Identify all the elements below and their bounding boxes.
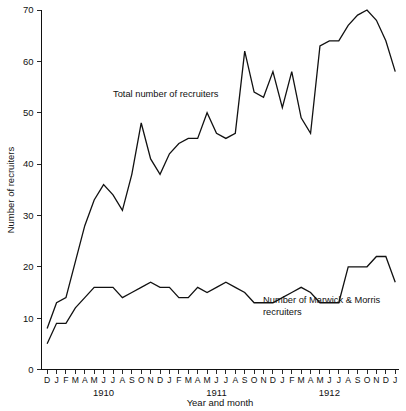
x-axis-month-label: A <box>345 375 351 385</box>
y-axis-tick-label: 30 <box>23 210 34 221</box>
x-axis-month-label: J <box>54 375 58 385</box>
x-axis-month-label: S <box>129 375 135 385</box>
y-axis-tick-label: 0 <box>28 364 33 375</box>
x-axis-month-label: N <box>148 375 154 385</box>
annotation-marwick-morris-line2: recruiters <box>263 307 302 317</box>
y-axis-tick-label: 50 <box>23 107 34 118</box>
x-axis-month-label: N <box>260 375 266 385</box>
x-axis-month-label: O <box>251 375 258 385</box>
x-axis-month-label: O <box>364 375 371 385</box>
x-axis-month-label: M <box>316 375 323 385</box>
x-axis-month-label: S <box>355 375 361 385</box>
x-axis-month-label: A <box>232 375 238 385</box>
x-axis-month-label: J <box>280 375 284 385</box>
x-axis-month-labels: DJFMAMJJASONDJFMAMJJASONDJFMAMJJASONDJ <box>44 375 397 385</box>
x-axis-month-label: D <box>383 375 389 385</box>
x-axis-month-label: M <box>91 375 98 385</box>
x-axis-month-label: J <box>214 375 218 385</box>
chart-svg: 010203040506070 DJFMAMJJASONDJFMAMJJASON… <box>0 0 406 411</box>
x-axis-month-label: A <box>308 375 314 385</box>
y-axis-tick-label: 60 <box>23 56 34 67</box>
x-axis-month-label: F <box>289 375 294 385</box>
x-axis-title: Year and month <box>187 397 254 408</box>
series-line-total-recruiters <box>47 10 395 328</box>
annotation-total-recruiters: Total number of recruiters <box>113 89 219 99</box>
x-axis-month-label: J <box>327 375 331 385</box>
y-axis-ticks <box>37 10 42 370</box>
y-axis-tick-label: 10 <box>23 313 34 324</box>
x-axis-year-label: 1911 <box>206 387 226 398</box>
y-axis-tick-label: 20 <box>23 261 34 272</box>
x-axis-year-label: 1910 <box>93 387 114 398</box>
annotation-marwick-morris-line1: Number of Marwick & Morris <box>263 295 381 305</box>
x-axis-ticks <box>47 370 395 375</box>
y-axis-tick-label: 40 <box>23 158 34 169</box>
x-axis-month-label: D <box>44 375 50 385</box>
x-axis-year-label: 1912 <box>319 387 340 398</box>
x-axis-month-label: N <box>373 375 379 385</box>
x-axis-month-label: S <box>242 375 248 385</box>
x-axis-month-label: J <box>393 375 397 385</box>
y-axis-tick-labels: 010203040506070 <box>23 4 34 375</box>
x-axis-month-label: J <box>111 375 115 385</box>
x-axis-month-label: A <box>82 375 88 385</box>
x-axis-month-label: D <box>270 375 276 385</box>
x-axis-month-label: J <box>224 375 228 385</box>
x-axis-month-label: J <box>337 375 341 385</box>
x-axis-month-label: M <box>185 375 192 385</box>
x-axis-month-label: A <box>120 375 126 385</box>
x-axis-month-label: M <box>298 375 305 385</box>
x-axis-month-label: M <box>72 375 79 385</box>
x-axis-month-label: J <box>101 375 105 385</box>
x-axis-month-label: D <box>157 375 163 385</box>
x-axis-year-labels: 191019111912 <box>93 387 340 398</box>
y-axis-tick-label: 70 <box>23 4 34 15</box>
x-axis-month-label: O <box>138 375 145 385</box>
x-axis-month-label: J <box>167 375 171 385</box>
x-axis-month-label: F <box>63 375 68 385</box>
x-axis-month-label: F <box>176 375 181 385</box>
recruiters-line-chart: 010203040506070 DJFMAMJJASONDJFMAMJJASON… <box>0 0 406 411</box>
x-axis-month-label: A <box>195 375 201 385</box>
y-axis-title: Number of recruiters <box>5 146 16 233</box>
x-axis-month-label: M <box>203 375 210 385</box>
